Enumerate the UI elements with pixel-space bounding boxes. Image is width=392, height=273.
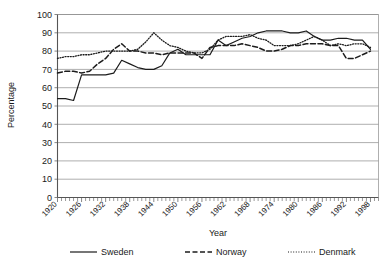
y-axis-tick-label: 30 bbox=[42, 138, 52, 148]
x-axis-tick-label: 1944 bbox=[136, 199, 155, 218]
y-axis-tick-label: 50 bbox=[42, 101, 52, 111]
x-axis-tick-label: 1926 bbox=[64, 199, 83, 218]
y-axis-tick-label: 70 bbox=[42, 65, 52, 75]
legend-label: Sweden bbox=[101, 247, 134, 257]
x-axis-tick-label: 1974 bbox=[257, 199, 276, 218]
legend-label: Denmark bbox=[319, 247, 356, 257]
y-axis-tick-label: 100 bbox=[37, 10, 52, 20]
line-chart: 1009080706050403020100 19201926193219381… bbox=[0, 0, 392, 273]
legend: SwedenNorwayDenmark bbox=[70, 247, 356, 257]
x-axis-tick-label: 1950 bbox=[160, 199, 179, 218]
x-axis-tick-label: 1980 bbox=[281, 199, 300, 218]
series-line-denmark bbox=[58, 33, 371, 59]
legend-label: Norway bbox=[216, 247, 247, 257]
x-axis-tick-label: 1962 bbox=[208, 199, 227, 218]
y-axis-title: Percentage bbox=[6, 82, 16, 128]
y-axis-tick-label: 20 bbox=[42, 156, 52, 166]
gridlines bbox=[58, 15, 379, 180]
x-axis-tick-label: 1986 bbox=[305, 199, 324, 218]
x-axis-tick-label: 1932 bbox=[88, 199, 107, 218]
x-axis-title: Year bbox=[209, 228, 227, 238]
x-axis-tick-label: 1992 bbox=[329, 199, 348, 218]
y-axis-tick-label: 40 bbox=[42, 120, 52, 130]
y-axis-tick-label: 10 bbox=[42, 174, 52, 184]
y-axis-tick-label: 90 bbox=[42, 28, 52, 38]
legend-item-sweden[interactable]: Sweden bbox=[70, 247, 134, 257]
legend-item-denmark[interactable]: Denmark bbox=[288, 247, 356, 257]
x-axis-tick-label: 1968 bbox=[233, 199, 252, 218]
x-axis-tick-label: 1920 bbox=[40, 199, 59, 218]
y-axis-tick-label: 60 bbox=[42, 83, 52, 93]
x-axis-tick-label: 1998 bbox=[353, 199, 372, 218]
x-axis-tick-labels: 1920192619321938194419501956196219681974… bbox=[40, 199, 372, 218]
data-series bbox=[58, 31, 371, 101]
x-axis-tick-label: 1938 bbox=[112, 199, 131, 218]
chart-container: 1009080706050403020100 19201926193219381… bbox=[0, 0, 392, 273]
y-axis-tick-label: 80 bbox=[42, 46, 52, 56]
y-axis-tick-labels: 1009080706050403020100 bbox=[37, 10, 52, 203]
x-axis-tick-label: 1956 bbox=[184, 199, 203, 218]
legend-item-norway[interactable]: Norway bbox=[185, 247, 247, 257]
